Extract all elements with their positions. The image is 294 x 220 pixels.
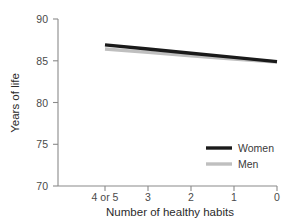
legend-label-women: Women <box>238 142 274 154</box>
y-tick-label-70: 70 <box>36 180 48 192</box>
y-tick-label-90: 90 <box>36 13 48 25</box>
y-axis-title: Years of life <box>9 73 21 133</box>
x-tick-label-0: 0 <box>274 191 280 203</box>
line-chart: 90 85 80 75 70 4 or 5 3 2 1 0 Years of l… <box>0 0 294 220</box>
y-tick-label-85: 85 <box>36 55 48 67</box>
legend-label-men: Men <box>238 158 259 170</box>
x-tick-label-2: 2 <box>188 191 194 203</box>
x-tick-label-4or5: 4 or 5 <box>92 191 119 203</box>
x-axis-title: Number of healthy habits <box>106 206 234 218</box>
y-tick-label-80: 80 <box>36 97 48 109</box>
x-tick-label-1: 1 <box>231 191 237 203</box>
y-tick-label-75: 75 <box>36 138 48 150</box>
x-tick-label-3: 3 <box>145 191 151 203</box>
chart-container: 90 85 80 75 70 4 or 5 3 2 1 0 Years of l… <box>0 0 294 220</box>
